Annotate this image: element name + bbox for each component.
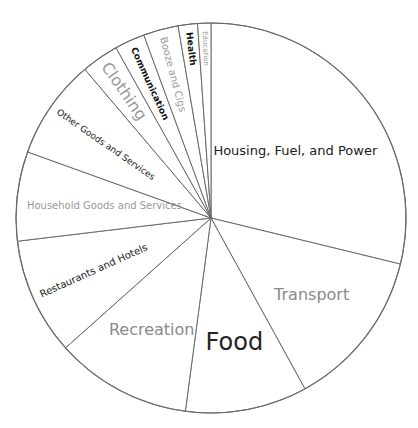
pie-chart: Housing, Fuel, and PowerTransportFoodRec… (0, 0, 418, 428)
slice-label: Education (201, 31, 210, 66)
slice-label: Housing, Fuel, and Power (213, 143, 378, 158)
slice-label: Household Goods and Services (27, 200, 182, 211)
slice-label: Transport (273, 285, 349, 304)
slice-label: Food (206, 328, 264, 356)
slice-label: Recreation (109, 320, 195, 339)
